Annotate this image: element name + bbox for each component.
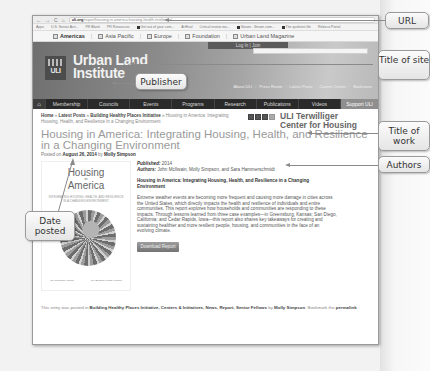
site-search-input[interactable] xyxy=(253,48,368,54)
publisher-arrow-line xyxy=(115,83,135,84)
bookmark-item[interactable]: Apps xyxy=(36,25,44,29)
main-nav: ⌂ Membership Councils Events Programs Re… xyxy=(33,99,378,109)
utility-link-press[interactable]: Press Room xyxy=(259,84,282,89)
nav-videos[interactable]: Videos xyxy=(298,99,340,109)
utility-links: About ULI| Press Room| Latest Posts| Car… xyxy=(234,84,373,89)
site-title-arrow-line xyxy=(133,64,373,65)
posted-line: Posted on August 26, 2014 by Molly Simps… xyxy=(41,152,370,157)
footer-author[interactable]: Molly Simpson xyxy=(274,305,305,310)
facebook-icon[interactable] xyxy=(248,114,254,120)
bookmark-item[interactable]: PR Blank xyxy=(85,25,100,29)
work-title-arrowhead-icon xyxy=(307,131,312,135)
bookmark-item[interactable]: The quirkiest life xyxy=(282,25,311,29)
site-banner: Log In | Join ULI Urban Land Institute A… xyxy=(33,42,378,99)
footer-categories[interactable]: Building Healthy Places Initiative, Cent… xyxy=(90,305,267,310)
authors-arrowhead-icon xyxy=(285,163,290,167)
nav-publications[interactable]: Publications xyxy=(256,99,298,109)
region-tab-foundation[interactable]: Foundation xyxy=(185,33,220,39)
region-tab-europe[interactable]: Europe xyxy=(147,33,172,39)
callout-publisher: Publisher xyxy=(135,73,187,90)
bookmark-item[interactable]: U.S. Senior Acti... xyxy=(51,25,78,29)
cover-logos: ULI Terwilliger Center ULI Building Heal… xyxy=(42,279,130,282)
reload-icon[interactable]: C xyxy=(54,17,58,23)
bookmark-item[interactable]: Critical review wa... xyxy=(200,25,230,29)
center-name: ULI Terwilliger Center for Housing xyxy=(280,112,357,129)
work-title-arrow-line xyxy=(311,133,378,134)
nav-events[interactable]: Events xyxy=(129,99,171,109)
permalink-link[interactable]: permalink xyxy=(336,305,357,310)
nav-research[interactable]: Research xyxy=(214,99,256,109)
breadcrumb: Home » Latest Posts » Building Healthy P… xyxy=(41,113,246,124)
bookmark-item[interactable]: ArtEval xyxy=(181,25,192,29)
report-meta: Published: 2014 Authors: John McIlwain, … xyxy=(137,161,337,291)
bookmark-item[interactable]: Rebeco Portal xyxy=(318,25,340,29)
nav-councils[interactable]: Councils xyxy=(87,99,129,109)
main-content: Home » Latest Posts » Building Healthy P… xyxy=(33,109,378,315)
region-tabs: Americas | Asia Pacific | Europe | Found… xyxy=(33,31,378,42)
callout-date-posted: Date posted xyxy=(25,211,75,241)
home-icon[interactable]: ⌂ xyxy=(62,17,65,23)
utility-link-latest-posts[interactable]: Latest Posts xyxy=(289,84,312,89)
download-report-button[interactable]: Download Report xyxy=(137,242,179,252)
url-arrow-line xyxy=(168,20,386,21)
region-tab-americas[interactable]: Americas xyxy=(53,33,85,39)
share-icon[interactable] xyxy=(269,114,275,120)
posted-author[interactable]: Molly Simpson xyxy=(104,152,136,157)
breadcrumb-bhpi[interactable]: Building Healthy Places Initiative xyxy=(90,113,161,118)
report-subtitle: Housing in America: Integrating Housing,… xyxy=(137,178,337,189)
region-icon xyxy=(53,34,58,39)
region-tab-asia-pacific[interactable]: Asia Pacific xyxy=(98,33,133,39)
region-icon xyxy=(185,34,190,39)
share-icons xyxy=(248,114,275,120)
callout-site-title: Title of site xyxy=(378,50,430,80)
entry-footer: This entry was posted in Building Health… xyxy=(41,305,371,311)
breadcrumb-latest-posts[interactable]: Latest Posts xyxy=(59,113,86,118)
email-icon[interactable] xyxy=(262,114,268,120)
bookmarks-bar: Apps U.S. Senior Acti... PR Blank PR Res… xyxy=(33,24,378,31)
url-arrowhead-icon xyxy=(164,18,169,22)
region-icon xyxy=(147,34,152,39)
region-icon xyxy=(233,34,238,39)
bookmark-item[interactable]: PR Resources xyxy=(107,25,130,29)
utility-link-bookstore[interactable]: Bookstore xyxy=(353,84,372,89)
bookmark-item[interactable]: Get out of your com... xyxy=(137,25,175,29)
login-link[interactable]: Log In xyxy=(236,43,249,48)
publisher-arrowhead-icon xyxy=(111,81,116,85)
callout-work-title: Title of work xyxy=(378,121,430,151)
callout-authors: Authors xyxy=(378,156,430,173)
nav-programs[interactable]: Programs xyxy=(171,99,213,109)
region-tab-urban-land-magazine[interactable]: Urban Land Magazine xyxy=(233,33,294,39)
forward-icon[interactable]: → xyxy=(45,17,50,23)
utility-link-career-center[interactable]: Career Center xyxy=(320,84,347,89)
region-icon xyxy=(98,34,103,39)
nav-membership[interactable]: Membership xyxy=(45,99,87,109)
report-description: Extreme weather events are becoming more… xyxy=(137,195,337,234)
breadcrumb-home[interactable]: Home xyxy=(41,113,54,118)
callout-url: URL xyxy=(385,12,429,29)
authors-arrow-line xyxy=(289,165,378,166)
uli-logo[interactable]: ULI xyxy=(45,56,66,80)
site-title-arrowhead-icon xyxy=(129,62,134,66)
authors-line: Authors: John McIlwain, Molly Simpson, a… xyxy=(137,167,337,173)
nav-support-uli[interactable]: Support ULI xyxy=(340,99,378,109)
utility-link-about[interactable]: About ULI xyxy=(234,84,253,89)
bookmark-item[interactable]: Steam - Steam com... xyxy=(237,25,275,29)
back-icon[interactable]: ← xyxy=(36,17,41,23)
home-nav-icon[interactable]: ⌂ xyxy=(33,99,45,109)
twitter-icon[interactable] xyxy=(255,114,261,120)
